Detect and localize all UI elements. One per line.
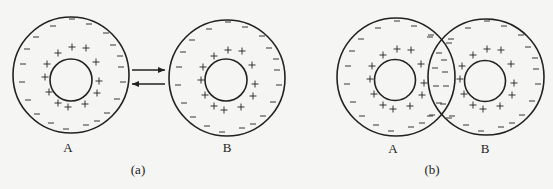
positive-charge-icon bbox=[198, 77, 205, 84]
positive-charge-icon bbox=[421, 80, 428, 87]
positive-charge-icon bbox=[55, 100, 62, 107]
positive-charge-icon bbox=[497, 103, 504, 110]
label-particle-a-B: B bbox=[223, 140, 232, 156]
positive-charge-icon bbox=[407, 103, 414, 110]
positive-charge-icon bbox=[202, 92, 209, 99]
particle-a-A-outer-layer bbox=[13, 17, 129, 133]
positive-charge-icon bbox=[44, 61, 51, 68]
positive-charge-icon bbox=[418, 61, 425, 68]
positive-charge-icon bbox=[380, 102, 387, 109]
positive-charge-icon bbox=[96, 78, 103, 85]
particle-b-A-outer-layer bbox=[337, 18, 455, 136]
positive-charge-icon bbox=[250, 93, 257, 100]
positive-charge-icon bbox=[470, 102, 477, 109]
positive-charge-icon bbox=[211, 103, 218, 110]
label-particle-b-A: A bbox=[388, 141, 397, 157]
particle-a-B-core bbox=[205, 59, 247, 101]
positive-charge-icon bbox=[498, 47, 505, 54]
caption-panel-b: (b) bbox=[424, 162, 439, 178]
positive-charge-icon bbox=[367, 76, 374, 83]
particle-a-A-core bbox=[50, 59, 92, 101]
positive-charge-icon bbox=[380, 52, 387, 59]
positive-charge-icon bbox=[457, 76, 464, 83]
caption-panel-a: (a) bbox=[131, 162, 145, 178]
positive-charge-icon bbox=[408, 47, 415, 54]
positive-charge-icon bbox=[93, 59, 100, 66]
positive-charge-icon bbox=[82, 101, 89, 108]
positive-charge-icon bbox=[238, 104, 245, 111]
positive-charge-icon bbox=[390, 106, 397, 113]
positive-charge-icon bbox=[508, 61, 515, 68]
positive-charge-icon bbox=[200, 64, 207, 71]
positive-charge-icon bbox=[221, 107, 228, 114]
positive-charge-icon bbox=[65, 104, 72, 111]
positive-charge-icon bbox=[480, 106, 487, 113]
positive-charge-icon bbox=[83, 45, 90, 52]
label-particle-a-A: A bbox=[63, 140, 72, 156]
label-particle-b-B: B bbox=[481, 141, 490, 157]
positive-charge-icon bbox=[249, 62, 256, 69]
particle-a-B-outer-layer bbox=[169, 20, 285, 136]
positive-charge-icon bbox=[484, 46, 491, 53]
positive-charge-icon bbox=[239, 48, 246, 55]
positive-charge-icon bbox=[470, 52, 477, 59]
positive-charge-icon bbox=[55, 50, 62, 57]
positive-charge-icon bbox=[225, 47, 232, 54]
positive-charge-icon bbox=[459, 63, 466, 70]
particle-b-B-outer-layer bbox=[428, 19, 544, 135]
figure-double-layer-interaction: A B (a) A B (b) bbox=[0, 0, 553, 189]
particle-b-A-core bbox=[375, 60, 416, 101]
positive-charge-icon bbox=[211, 53, 218, 60]
positive-charge-icon bbox=[94, 90, 101, 97]
positive-charge-icon bbox=[394, 46, 401, 53]
positive-charge-icon bbox=[371, 91, 378, 98]
positive-charge-icon bbox=[252, 81, 259, 88]
positive-charge-icon bbox=[509, 92, 516, 99]
positive-charge-icon bbox=[419, 92, 426, 99]
positive-charge-icon bbox=[511, 80, 518, 87]
particle-b-B-core bbox=[465, 61, 506, 102]
positive-charge-icon bbox=[69, 44, 76, 51]
arrow-left-icon bbox=[132, 81, 139, 87]
arrow-right-icon bbox=[158, 67, 165, 73]
positive-charge-icon bbox=[369, 63, 376, 70]
diagram-canvas bbox=[0, 0, 553, 189]
positive-charge-icon bbox=[42, 74, 49, 81]
positive-charge-icon bbox=[461, 91, 468, 98]
